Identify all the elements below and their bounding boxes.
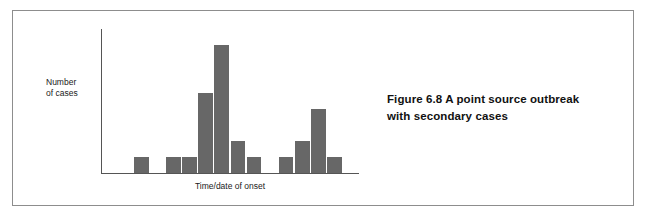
figure-caption-line-1: Figure 6.8 A point source outbreak [387, 93, 579, 105]
x-axis-line [101, 173, 359, 174]
figure-root: Numberof cases Time/date of onset Figure… [0, 0, 650, 217]
x-axis-label: Time/date of onset [101, 181, 359, 192]
bar [295, 141, 310, 173]
bar [279, 157, 294, 173]
bar [231, 141, 246, 173]
bar [214, 45, 229, 173]
bar [198, 93, 213, 173]
plot-surface [102, 29, 359, 173]
bar [182, 157, 197, 173]
bar [327, 157, 342, 173]
figure-caption-line-2: with secondary cases [387, 108, 617, 125]
epidemic-curve-chart: Numberof cases Time/date of onset [13, 11, 383, 207]
y-axis-label-line-2: of cases [46, 88, 78, 98]
figure-caption: Figure 6.8 A point source outbreak with … [387, 91, 617, 125]
y-axis-label: Numberof cases [46, 77, 108, 99]
y-axis-label-line-1: Number [46, 77, 76, 87]
figure-border: Numberof cases Time/date of onset Figure… [12, 10, 634, 206]
bar [166, 157, 181, 173]
bar [134, 157, 149, 173]
bar [247, 157, 262, 173]
bar [311, 109, 326, 173]
